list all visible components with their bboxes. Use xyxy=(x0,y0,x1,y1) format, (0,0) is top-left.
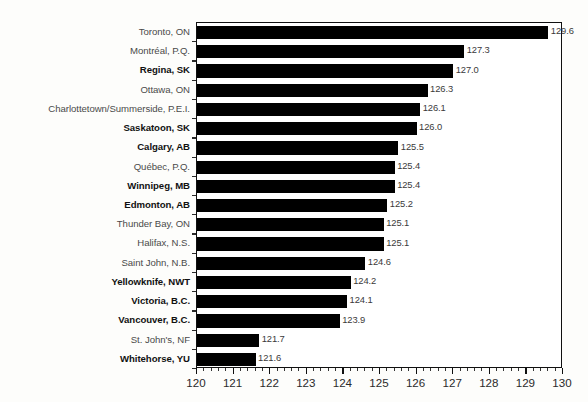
bar-value-label: 126.0 xyxy=(419,121,442,132)
x-tick-minor xyxy=(335,368,336,371)
x-tick-minor xyxy=(533,368,534,371)
x-tick-major xyxy=(306,368,307,374)
x-tick-major xyxy=(525,368,526,374)
bar-value-label: 127.0 xyxy=(456,64,479,75)
x-tick-major xyxy=(196,368,197,374)
bar-chart: Toronto, ONMontréal, P.Q.Regina, SKOttaw… xyxy=(0,0,588,402)
x-tick-minor xyxy=(394,368,395,371)
bar-value-label: 126.3 xyxy=(430,83,453,94)
bar-value-label: 125.1 xyxy=(386,237,409,248)
x-tick-minor xyxy=(438,368,439,371)
bar-row: 124.1 xyxy=(197,292,561,311)
x-tick-minor xyxy=(240,368,241,371)
x-tick-label: 127 xyxy=(443,376,462,389)
bar-row: 125.1 xyxy=(197,234,561,253)
x-tick-minor xyxy=(423,368,424,371)
bar-value-label: 125.5 xyxy=(401,141,424,152)
x-tick-minor xyxy=(247,368,248,371)
bar xyxy=(197,180,395,193)
bar-row: 123.9 xyxy=(197,311,561,330)
x-tick-minor xyxy=(408,368,409,371)
bar-row: 127.0 xyxy=(197,61,561,80)
x-tick-major xyxy=(233,368,234,374)
bar-row: 126.3 xyxy=(197,81,561,100)
x-tick-minor xyxy=(291,368,292,371)
x-tick-label: 129 xyxy=(516,376,535,389)
category-label: St. John's, NF xyxy=(0,334,190,345)
bar-value-label: 125.4 xyxy=(397,179,420,190)
bar-value-label: 125.4 xyxy=(397,160,420,171)
x-tick-label: 123 xyxy=(296,376,315,389)
x-tick-label: 121 xyxy=(223,376,242,389)
x-tick-major xyxy=(379,368,380,374)
x-tick-minor xyxy=(313,368,314,371)
bar xyxy=(197,334,259,347)
category-label: Saint John, N.B. xyxy=(0,257,190,268)
bar-row: 125.5 xyxy=(197,138,561,157)
x-tick-minor xyxy=(357,368,358,371)
category-label: Vancouver, B.C. xyxy=(0,314,190,325)
x-tick-minor xyxy=(218,368,219,371)
bar xyxy=(197,237,384,250)
x-tick-label: 128 xyxy=(479,376,498,389)
category-label: Yellowknife, NWT xyxy=(0,276,190,287)
x-tick-minor xyxy=(430,368,431,371)
x-tick-minor xyxy=(372,368,373,371)
bar-value-label: 124.6 xyxy=(368,256,391,267)
category-label: Whitehorse, YU xyxy=(0,353,190,364)
x-tick-minor xyxy=(518,368,519,371)
category-label: Thunder Bay, ON xyxy=(0,218,190,229)
bar xyxy=(197,84,428,97)
bar xyxy=(197,26,548,39)
category-label: Toronto, ON xyxy=(0,26,190,37)
x-tick-major xyxy=(452,368,453,374)
x-tick-minor xyxy=(503,368,504,371)
bar xyxy=(197,353,256,366)
x-tick-minor xyxy=(386,368,387,371)
x-tick-minor xyxy=(350,368,351,371)
bar-value-label: 124.1 xyxy=(350,294,373,305)
category-label: Winnipeg, MB xyxy=(0,180,190,191)
category-label: Québec, P.Q. xyxy=(0,161,190,172)
x-tick-minor xyxy=(328,368,329,371)
x-tick-minor xyxy=(511,368,512,371)
x-tick-minor xyxy=(474,368,475,371)
bar xyxy=(197,64,453,77)
bar-row: 121.6 xyxy=(197,350,561,369)
x-tick-label: 130 xyxy=(552,376,571,389)
bar-value-label: 126.1 xyxy=(423,102,446,113)
bar-value-label: 125.2 xyxy=(390,198,413,209)
x-tick-minor xyxy=(496,368,497,371)
x-tick-minor xyxy=(481,368,482,371)
x-tick-minor xyxy=(320,368,321,371)
bar xyxy=(197,314,340,327)
category-label: Victoria, B.C. xyxy=(0,295,190,306)
bar-row: 121.7 xyxy=(197,331,561,350)
x-tick-minor xyxy=(547,368,548,371)
bar-row: 126.1 xyxy=(197,100,561,119)
x-tick-label: 120 xyxy=(186,376,205,389)
x-tick-minor xyxy=(445,368,446,371)
x-tick-minor xyxy=(262,368,263,371)
x-tick-major xyxy=(269,368,270,374)
bar-row: 125.1 xyxy=(197,215,561,234)
bar xyxy=(197,122,417,135)
category-label: Halifax, N.S. xyxy=(0,237,190,248)
x-tick-minor xyxy=(555,368,556,371)
x-tick-major xyxy=(489,368,490,374)
bar xyxy=(197,161,395,174)
x-tick-minor xyxy=(364,368,365,371)
x-tick-major xyxy=(562,368,563,374)
category-label: Regina, SK xyxy=(0,64,190,75)
bar-row: 124.6 xyxy=(197,254,561,273)
bar-row: 127.3 xyxy=(197,42,561,61)
bar-value-label: 121.7 xyxy=(262,333,285,344)
x-tick-minor xyxy=(277,368,278,371)
category-label: Saskatoon, SK xyxy=(0,122,190,133)
bar-row: 125.4 xyxy=(197,158,561,177)
bar-row: 126.0 xyxy=(197,119,561,138)
bar-row: 124.2 xyxy=(197,273,561,292)
bar xyxy=(197,141,398,154)
x-tick-minor xyxy=(401,368,402,371)
x-tick-minor xyxy=(225,368,226,371)
